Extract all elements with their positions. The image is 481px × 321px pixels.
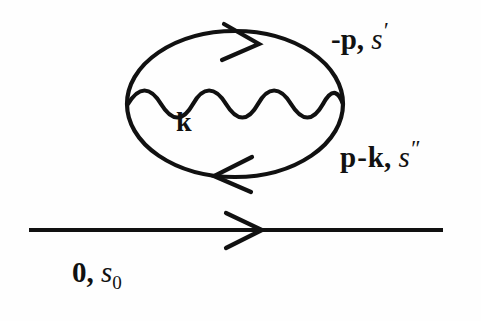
upper-line-spin-prime: ′ xyxy=(383,18,388,43)
feynman-diagram-canvas: -p, s′ p-k, s″ k 0, s0 xyxy=(0,0,481,321)
lower-line-momentum-first: p xyxy=(340,141,356,173)
external-line-spin: s xyxy=(101,256,112,288)
lower-line-operator: - xyxy=(356,141,368,173)
external-line-momentum: 0 xyxy=(72,256,87,288)
label-photon-momentum: k xyxy=(176,108,192,136)
lower-line-separator: , xyxy=(384,141,391,173)
lower-line-spin: s xyxy=(398,141,409,173)
lower-line-momentum-second: k xyxy=(368,141,384,173)
upper-line-separator: , xyxy=(357,23,364,55)
label-upper-loop-momentum: -p, s′ xyxy=(331,20,388,54)
external-line-spin-index: 0 xyxy=(112,272,122,293)
label-lower-loop-momentum: p-k, s″ xyxy=(340,138,420,172)
upper-line-sign: - xyxy=(331,23,341,55)
external-line-separator: , xyxy=(87,256,94,288)
loop-lower-arrow-icon xyxy=(214,157,252,192)
photon-wavy-line xyxy=(128,91,343,118)
label-external-line-quantum-numbers: 0, s0 xyxy=(72,258,122,292)
upper-line-spin: s xyxy=(371,23,382,55)
lower-line-spin-double-prime: ″ xyxy=(410,136,420,161)
photon-momentum-symbol: k xyxy=(176,106,192,137)
upper-line-momentum: p xyxy=(341,23,357,55)
